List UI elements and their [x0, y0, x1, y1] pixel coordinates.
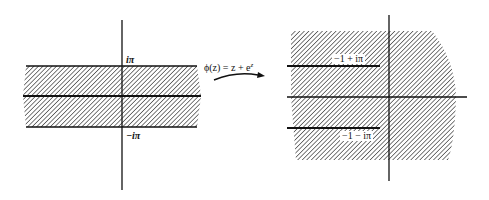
- label-lower-slit-endpoint: −1 − iπ: [340, 131, 373, 141]
- mapping-diagram: [0, 0, 489, 200]
- image-region: [291, 31, 456, 160]
- mapping-arrow: [214, 74, 258, 80]
- mapping-formula: ϕ(z) = z + ez: [204, 62, 253, 73]
- label-minus-i-pi: −iπ: [126, 131, 140, 141]
- label-i-pi: iπ: [126, 55, 134, 65]
- mapping-formula-text: ϕ(z) = z + e: [204, 62, 251, 73]
- right-panel: [287, 15, 467, 181]
- label-upper-slit-endpoint: −1 + iπ: [332, 54, 365, 64]
- mapping-exponent: z: [251, 61, 254, 69]
- left-panel: [23, 20, 201, 190]
- arrowhead-icon: [257, 72, 265, 78]
